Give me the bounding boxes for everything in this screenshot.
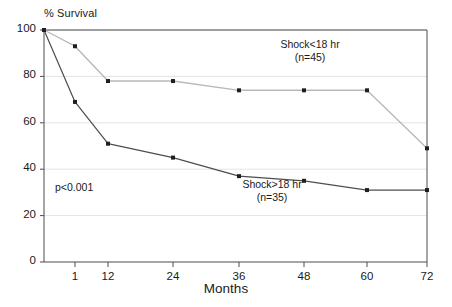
series-label-shock-gt-18hr: Shock>18 hr (n=35) xyxy=(208,178,336,205)
y-tick-label-20: 20 xyxy=(4,208,36,220)
x-tick-label-36: 36 xyxy=(219,270,259,282)
data-point-marker xyxy=(73,44,77,48)
y-axis-title: % Survival xyxy=(44,7,97,20)
data-point-marker xyxy=(425,146,429,150)
data-point-marker xyxy=(302,88,306,92)
x-tick-label-24: 24 xyxy=(153,270,193,282)
x-tick-label-48: 48 xyxy=(284,270,324,282)
data-point-marker xyxy=(106,142,110,146)
data-point-marker xyxy=(365,88,369,92)
y-tick-label-60: 60 xyxy=(4,115,36,127)
series-label-upper-text: Shock<18 hr xyxy=(246,38,374,51)
series-label-lower-count: (n=35) xyxy=(208,191,336,204)
plot-canvas xyxy=(0,0,452,307)
x-tick-label-12: 12 xyxy=(88,270,128,282)
series-label-shock-lt-18hr: Shock<18 hr (n=45) xyxy=(246,38,374,65)
y-tick-label-100: 100 xyxy=(4,22,36,34)
data-point-marker xyxy=(106,79,110,83)
data-point-marker xyxy=(425,188,429,192)
p-value-annotation: p<0.001 xyxy=(55,181,165,193)
series-label-lower-text: Shock>18 hr xyxy=(208,178,336,191)
data-point-marker xyxy=(237,88,241,92)
data-point-marker xyxy=(365,188,369,192)
data-point-marker xyxy=(171,79,175,83)
x-axis-title: Months xyxy=(0,281,452,297)
y-tick-label-40: 40 xyxy=(4,161,36,173)
data-point-marker xyxy=(171,156,175,160)
data-point-marker xyxy=(73,100,77,104)
survival-chart-figure: % Survival Months 020406080100 112243648… xyxy=(0,0,452,307)
y-tick-label-80: 80 xyxy=(4,68,36,80)
series-label-upper-count: (n=45) xyxy=(246,51,374,64)
x-tick-label-72: 72 xyxy=(407,270,447,282)
x-tick-label-60: 60 xyxy=(347,270,387,282)
data-point-marker xyxy=(42,28,46,32)
y-tick-label-0: 0 xyxy=(4,254,36,266)
